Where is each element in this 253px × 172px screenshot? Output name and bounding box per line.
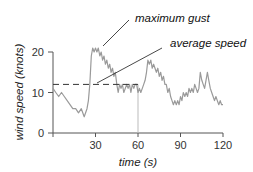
x-tick-label-120: 120 [214,139,232,151]
y-axis-title: wind speed (knots) [13,44,25,141]
max-gust-leader-line [103,20,129,46]
max-gust-label: maximum gust [135,12,211,24]
y-tick-label-20: 20 [32,46,44,58]
x-axis-title: time (s) [119,156,158,168]
avg-speed-label: average speed [170,37,247,49]
y-tick-label-10: 10 [32,87,44,99]
y-tick-label-0: 0 [38,127,44,139]
x-tick-label-30: 30 [89,139,101,151]
axes [48,52,223,137]
x-tick-label-60: 60 [132,139,144,151]
x-tick-label-90: 90 [174,139,186,151]
wind-speed-chart: 0 10 20 30 60 90 120 time (s) wind speed… [0,0,253,172]
